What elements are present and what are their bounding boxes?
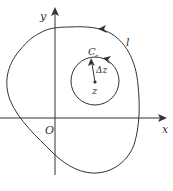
x-axis xyxy=(0,114,167,122)
inner-circle-arrow-icon xyxy=(103,56,111,64)
origin-label: O xyxy=(45,124,54,137)
x-axis-label: x xyxy=(162,123,169,136)
contour-diagram: y O x l C r Δz z xyxy=(0,0,173,191)
contour-l-label: l xyxy=(126,36,130,49)
delta-z-vector xyxy=(92,64,95,82)
center-z-label: z xyxy=(91,85,98,96)
y-axis-label: y xyxy=(39,10,47,23)
outer-contour-l xyxy=(7,27,139,173)
delta-z-arrow-icon xyxy=(88,58,95,66)
outer-contour-arrow-icon xyxy=(98,25,107,33)
delta-z-label: Δz xyxy=(95,65,107,75)
y-axis xyxy=(51,7,59,175)
circle-r-subscript: r xyxy=(95,52,99,59)
